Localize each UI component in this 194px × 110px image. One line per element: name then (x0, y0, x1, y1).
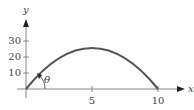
x-axis-arrow-icon (177, 86, 185, 92)
angle-label: θ (44, 74, 50, 85)
y-tick-label-30: 30 (8, 35, 21, 46)
y-axis-arrow-icon (23, 19, 29, 27)
y-axis-label: y (22, 4, 29, 15)
x-axis-label: x (188, 83, 194, 94)
y-tick-label-10: 10 (8, 67, 21, 78)
x-tick-label-10: 10 (152, 95, 165, 106)
x-tick-label-5: 5 (89, 95, 95, 106)
y-tick-label-20: 20 (8, 51, 21, 62)
trajectory-diagram: x y 30 20 10 5 10 θ (0, 0, 194, 110)
